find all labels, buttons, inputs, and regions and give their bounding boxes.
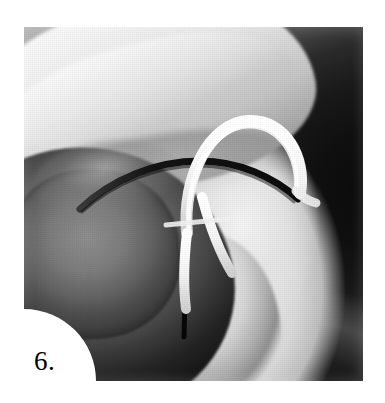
cord-assembly <box>24 27 363 381</box>
white-cord-right-leg <box>202 197 232 273</box>
white-cord-cross-bar <box>166 219 228 225</box>
white-cord-left-leg <box>184 233 187 309</box>
step-number-label: 6. <box>34 348 55 375</box>
step-photo <box>24 27 363 381</box>
page-root: 6. <box>0 0 385 403</box>
